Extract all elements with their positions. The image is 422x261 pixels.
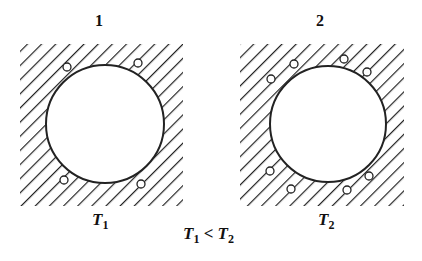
panel-2-number: 2 xyxy=(316,12,324,30)
panel-1-block xyxy=(20,44,183,206)
diagram-canvas xyxy=(0,0,422,261)
temperature-relation: T1 < T2 xyxy=(183,224,234,247)
panel-1-temperature: T1 xyxy=(92,210,108,233)
panel-2-temperature: T2 xyxy=(318,210,334,233)
panel-1-hole xyxy=(46,65,164,183)
panel-2-hole xyxy=(270,66,386,182)
panel-2-block xyxy=(240,44,404,206)
panel-1-number: 1 xyxy=(95,12,103,30)
